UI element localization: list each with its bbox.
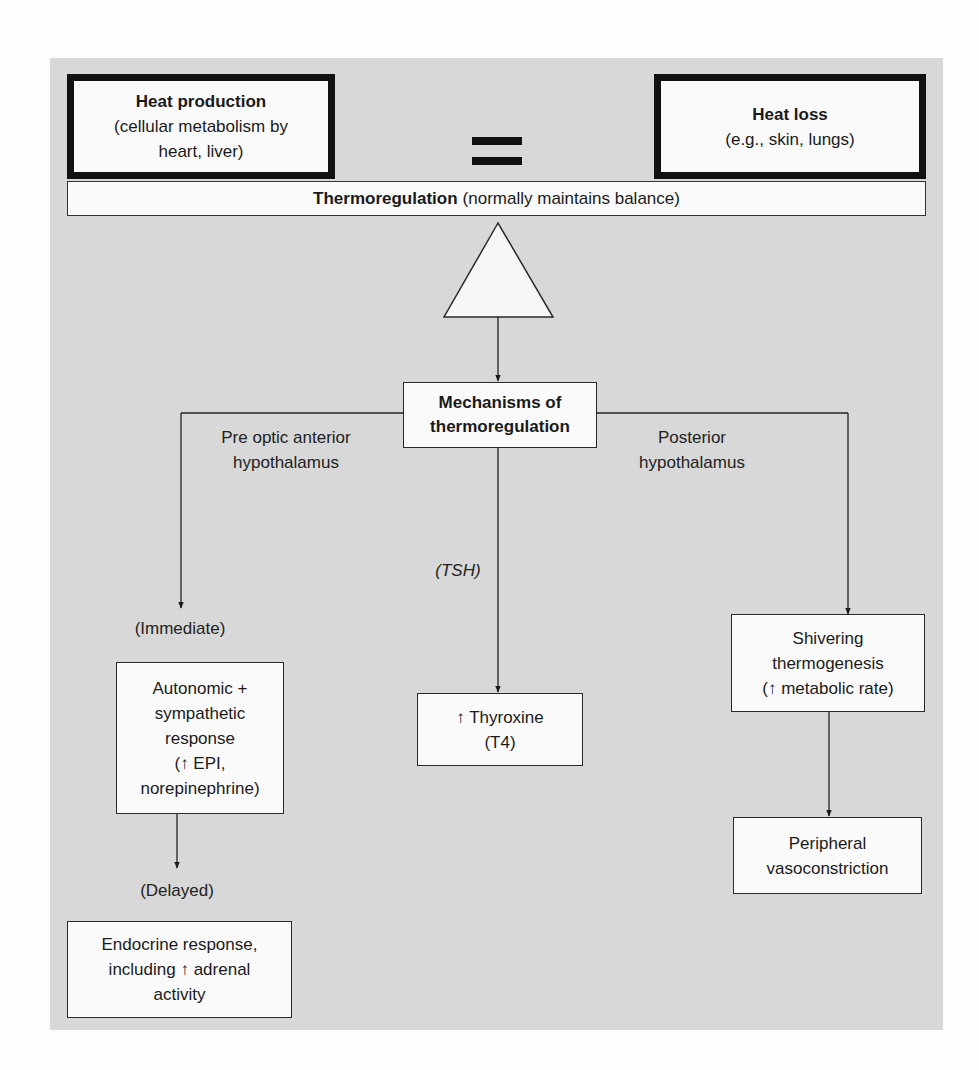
immediate-label: (Immediate) xyxy=(110,616,250,641)
thyroxine-box: ↑ Thyroxine (T4) xyxy=(417,693,583,766)
endocrine-line-2: including ↑ adrenal xyxy=(109,957,251,982)
heat-production-detail-1: (cellular metabolism by xyxy=(114,114,288,139)
endocrine-line-1: Endocrine response, xyxy=(102,932,258,957)
heat-loss-title: Heat loss xyxy=(752,102,828,127)
heat-production-detail-2: heart, liver) xyxy=(158,139,243,164)
posterior-label-line-1: Posterior xyxy=(612,425,772,450)
thermoregulation-detail: (normally maintains balance) xyxy=(463,189,680,209)
autonomic-line-5: norepinephrine) xyxy=(140,776,259,801)
shivering-line-2: thermogenesis xyxy=(772,651,884,676)
mechanisms-line-1: Mechanisms of xyxy=(439,391,562,415)
preoptic-label-line-2: hypothalamus xyxy=(196,450,376,475)
autonomic-line-3: response xyxy=(165,726,235,751)
mechanisms-box: Mechanisms of thermoregulation xyxy=(403,382,597,448)
heat-loss-box: Heat loss (e.g., skin, lungs) xyxy=(654,74,926,179)
mechanisms-line-2: thermoregulation xyxy=(430,415,570,439)
preoptic-label-line-1: Pre optic anterior xyxy=(196,425,376,450)
tsh-label: (TSH) xyxy=(428,558,488,583)
shivering-thermogenesis-box: Shivering thermogenesis (↑ metabolic rat… xyxy=(731,614,925,712)
autonomic-line-2: sympathetic xyxy=(155,701,246,726)
thermoregulation-title: Thermoregulation xyxy=(313,189,458,209)
equals-icon-top xyxy=(472,137,522,145)
endocrine-response-box: Endocrine response, including ↑ adrenal … xyxy=(67,921,292,1018)
peripheral-line-2: vasoconstriction xyxy=(767,856,889,881)
peripheral-line-1: Peripheral xyxy=(789,831,867,856)
peripheral-vasoconstriction-box: Peripheral vasoconstriction xyxy=(733,817,922,894)
preoptic-anterior-hypothalamus-label: Pre optic anterior hypothalamus xyxy=(196,425,376,475)
equals-icon-bottom xyxy=(472,157,522,165)
delayed-label: (Delayed) xyxy=(112,878,242,903)
shivering-line-3: (↑ metabolic rate) xyxy=(762,676,893,701)
thermoregulation-bar: Thermoregulation (normally maintains bal… xyxy=(67,181,926,216)
heat-production-box: Heat production (cellular metabolism by … xyxy=(67,74,335,179)
endocrine-line-3: activity xyxy=(154,982,206,1007)
thyroxine-line-1: ↑ Thyroxine xyxy=(456,705,544,730)
autonomic-line-4: (↑ EPI, xyxy=(174,751,225,776)
thyroxine-line-2: (T4) xyxy=(484,730,515,755)
autonomic-response-box: Autonomic + sympathetic response (↑ EPI,… xyxy=(116,662,284,814)
posterior-hypothalamus-label: Posterior hypothalamus xyxy=(612,425,772,475)
shivering-line-1: Shivering xyxy=(793,626,864,651)
heat-production-title: Heat production xyxy=(136,89,266,114)
posterior-label-line-2: hypothalamus xyxy=(612,450,772,475)
autonomic-line-1: Autonomic + xyxy=(153,676,248,701)
heat-loss-detail: (e.g., skin, lungs) xyxy=(725,127,854,152)
